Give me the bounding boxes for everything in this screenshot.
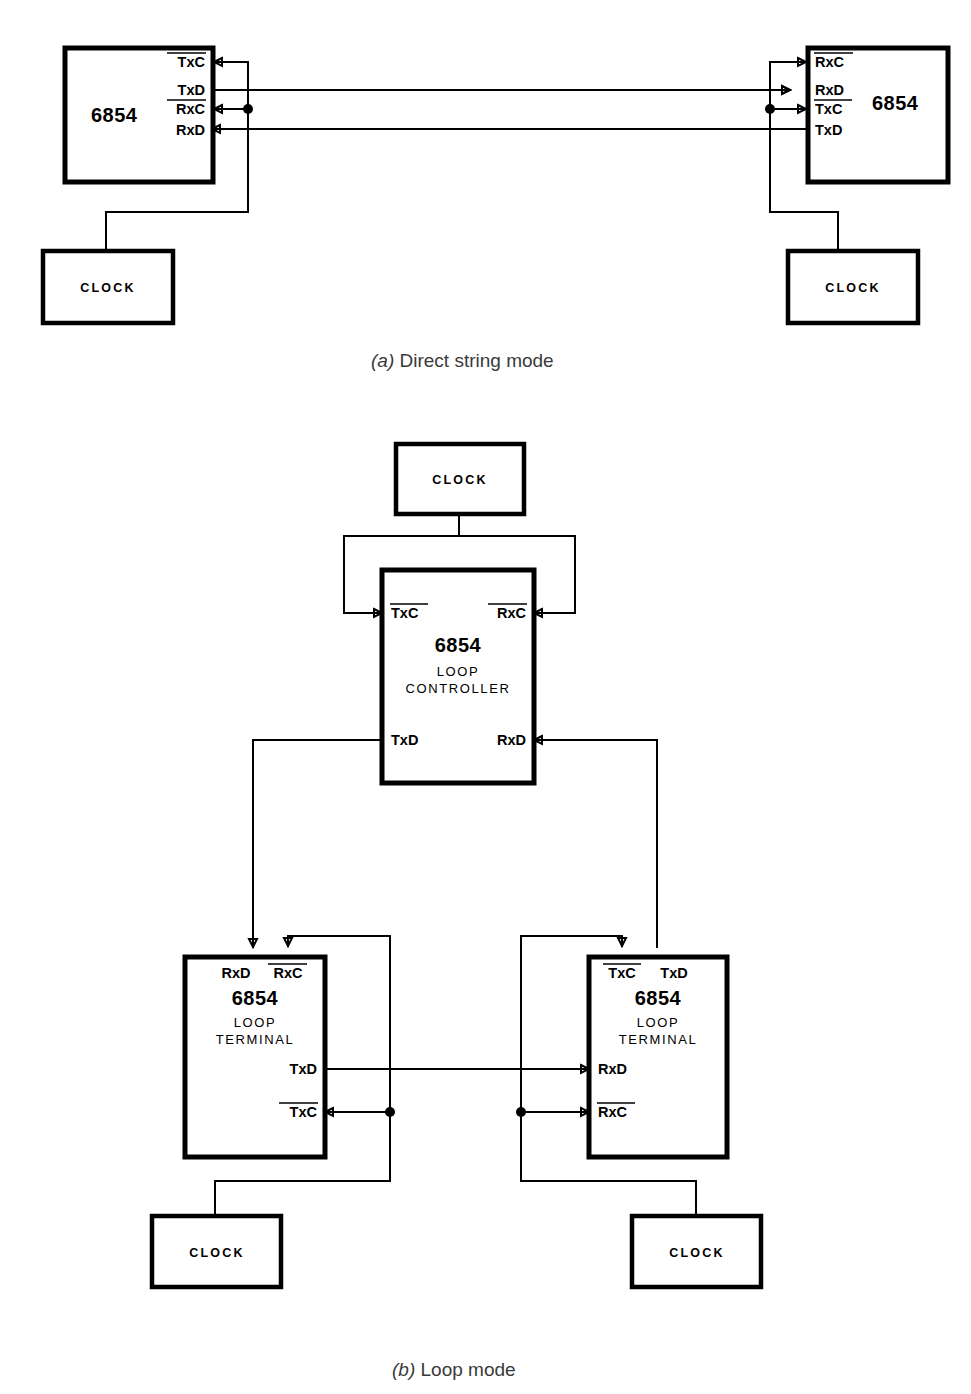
caption-panel-a-index: (a) [371,350,394,371]
pin-left-rxd-label: RxD [176,122,205,138]
chip-left-loop-terminal-subtitle-2: TERMINAL [216,1032,295,1047]
clock-controller[interactable]: CLOCK [396,444,524,514]
pin-right-txd-label: TxD [815,122,842,138]
clock-right[interactable]: CLOCK [788,251,918,323]
pin-right-terminal-txc: TxC [603,964,641,981]
chip-loop-controller-title: 6854 [435,634,482,656]
pin-right-terminal-txd-label: TxD [660,965,687,981]
pin-left-txd-label: TxD [178,82,205,98]
chip-left-adlc-title: 6854 [91,104,138,126]
pin-right-rxc-label: RxC [815,54,845,70]
chip-left-adlc[interactable]: 6854 TxC TxD RxC RxD [65,48,213,182]
pin-left-terminal-txd-label: TxD [290,1061,317,1077]
pin-left-terminal-rxd-label: RxD [221,965,250,981]
clock-left-label: CLOCK [80,281,135,295]
chip-left-loop-terminal-subtitle-1: LOOP [234,1015,277,1030]
clock-left-terminal-label: CLOCK [189,1246,244,1260]
pin-right-txc-label: TxC [815,101,843,117]
clock-left-terminal[interactable]: CLOCK [152,1216,281,1287]
pin-left-terminal-rxc-label: RxC [273,965,303,981]
pin-right-rxd-label: RxD [815,82,844,98]
chip-loop-controller[interactable]: 6854 LOOP CONTROLLER TxC RxC TxD RxD [382,570,534,783]
clock-right-terminal[interactable]: CLOCK [632,1216,761,1287]
chip-right-loop-terminal-title: 6854 [635,987,682,1009]
chip-loop-controller-subtitle-1: LOOP [437,664,480,679]
pin-left-terminal-txc-label: TxC [290,1104,318,1120]
caption-panel-b-text: Loop mode [415,1359,515,1380]
pin-controller-rxc-label: RxC [497,605,527,621]
pin-right-terminal-rxd-label: RxD [598,1061,627,1077]
caption-panel-a: (a) Direct string mode [371,350,554,371]
pin-controller-rxd-label: RxD [497,732,526,748]
chip-right-loop-terminal-subtitle-2: TERMINAL [619,1032,698,1047]
clock-right-label: CLOCK [825,281,880,295]
pin-left-txc-label: TxC [178,54,206,70]
clock-controller-label: CLOCK [432,473,487,487]
chip-right-loop-terminal-subtitle-1: LOOP [637,1015,680,1030]
caption-panel-a-text: Direct string mode [394,350,553,371]
junction-dot-right-clock [765,104,775,114]
chip-loop-controller-subtitle-2: CONTROLLER [406,681,511,696]
pin-left-rxc-label: RxC [176,101,206,117]
pin-controller-txc-label: TxC [391,605,419,621]
pin-controller-txd-label: TxD [391,732,418,748]
adlc-clocking-figure: 6854 TxC TxD RxC RxD 6854 RxC [0,0,971,1394]
caption-panel-b: (b) Loop mode [392,1359,516,1380]
junction-dot-left-terminal-clock [385,1107,395,1117]
junction-dot-left-clock [243,104,253,114]
chip-right-adlc-title: 6854 [872,92,919,114]
clock-left[interactable]: CLOCK [43,251,173,323]
chip-right-adlc[interactable]: 6854 RxC RxD TxC TxD [808,48,948,182]
pin-right-terminal-txc-label: TxC [608,965,636,981]
pin-right-terminal-rxc-label: RxC [598,1104,628,1120]
chip-left-loop-terminal-title: 6854 [232,987,279,1009]
chip-right-loop-terminal[interactable]: 6854 LOOP TERMINAL TxC TxD RxD RxC [589,957,727,1157]
pin-left-terminal-rxc: RxC [268,964,307,981]
chip-left-loop-terminal[interactable]: 6854 LOOP TERMINAL RxD RxC TxD TxC [185,957,325,1157]
junction-dot-right-terminal-clock [516,1107,526,1117]
caption-panel-b-index: (b) [392,1359,415,1380]
clock-right-terminal-label: CLOCK [669,1246,724,1260]
